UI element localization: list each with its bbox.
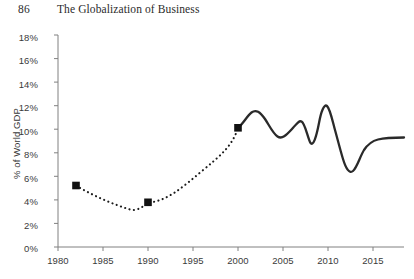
chart-figure: % of World GDP 18% 16% 14% 12% 10% 8% 6%… [0,20,414,279]
data-point-marker [234,124,242,132]
data-point-markers [72,124,242,206]
data-point-marker [144,199,152,207]
y-axis-ticks [54,35,58,247]
page-number: 86 [18,3,30,15]
x-axis-ticks [58,247,373,251]
series-reported-solid [238,106,404,172]
chapter-title: The Globalization of Business [57,3,199,15]
data-point-marker [72,182,80,190]
plot-area [0,20,414,279]
series-estimated-dotted [76,128,238,210]
running-head: 86 The Globalization of Business [0,0,414,20]
figure-page: 86 The Globalization of Business % of Wo… [0,0,414,279]
